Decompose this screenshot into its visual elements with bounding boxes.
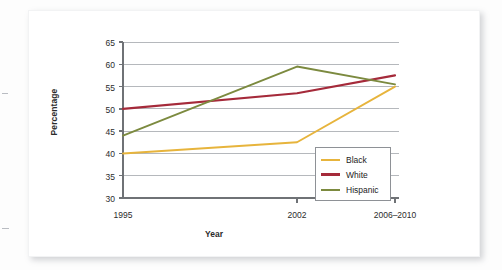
x-tick-label-1995: 1995 xyxy=(103,210,143,220)
y-tick-label-65: 65 xyxy=(93,38,115,48)
x-axis-title: Year xyxy=(29,229,399,239)
legend-swatch-white xyxy=(321,173,340,176)
legend-item-black: Black xyxy=(316,152,390,167)
y-tick-label-35: 35 xyxy=(93,172,115,182)
y-tick-label-60: 60 xyxy=(93,60,115,70)
legend-swatch-hispanic xyxy=(321,189,340,191)
y-tick-label-55: 55 xyxy=(93,83,115,93)
y-tick-label-50: 50 xyxy=(93,105,115,115)
legend-label-black: Black xyxy=(346,155,367,165)
x-tick-label-2006-2010: 2006–2010 xyxy=(365,210,425,220)
y-tick-label-40: 40 xyxy=(93,149,115,159)
x-tick-label-2002: 2002 xyxy=(277,210,317,220)
legend-label-hispanic: Hispanic xyxy=(346,185,379,195)
y-axis-title: Percentage xyxy=(49,67,59,157)
page-edge-mark-bottom xyxy=(2,228,9,229)
y-tick-label-45: 45 xyxy=(93,127,115,137)
page-edge-mark-top xyxy=(2,93,8,94)
chart-legend: Black White Hispanic xyxy=(315,147,391,201)
legend-label-white: White xyxy=(346,170,368,180)
y-tick-label-30: 30 xyxy=(93,194,115,204)
figure-card: 65 60 55 50 45 40 35 30 1995 2002 2006–2… xyxy=(28,10,480,257)
line-chart: 65 60 55 50 45 40 35 30 1995 2002 2006–2… xyxy=(29,11,479,256)
legend-item-white: White xyxy=(316,167,390,182)
series-lines xyxy=(123,67,395,154)
legend-item-hispanic: Hispanic xyxy=(316,182,390,197)
legend-swatch-black xyxy=(321,159,340,161)
